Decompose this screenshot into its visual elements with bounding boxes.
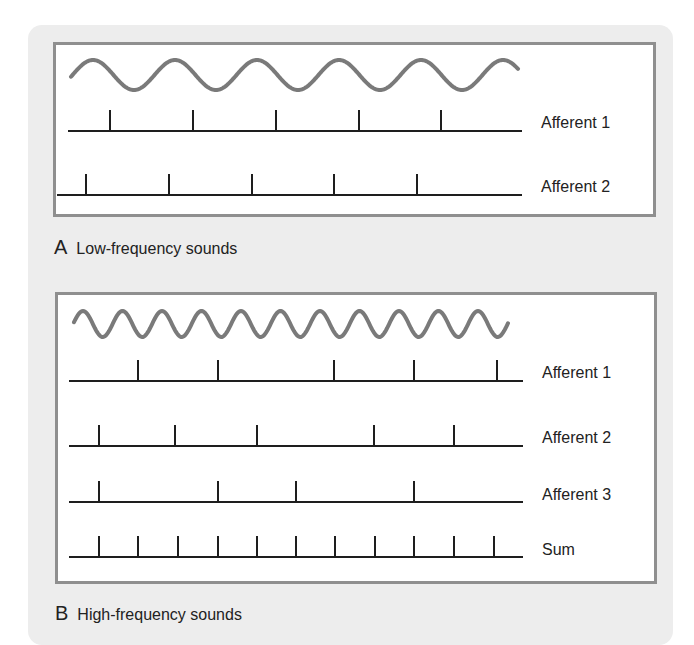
spike-train-afferent-1 [68, 110, 522, 131]
panel-b-afferent-2-label: Afferent 2 [542, 429, 611, 447]
panel-b-sound-wave [74, 311, 508, 337]
panel-b-afferent-3-label: Afferent 3 [542, 486, 611, 504]
panel-b-letter: B [55, 602, 68, 624]
spike-train-afferent-3 [69, 481, 523, 502]
panel-a-letter: A [54, 236, 67, 258]
spike-train-afferent-1 [69, 360, 523, 381]
spike-train-afferent-2 [69, 425, 523, 446]
spike-train-afferent-2 [57, 174, 522, 195]
panel-b-caption: BHigh-frequency sounds [55, 602, 242, 625]
panel-b-sum-label: Sum [542, 541, 575, 559]
panel-a-caption: ALow-frequency sounds [54, 236, 237, 259]
panel-a-afferent-2-label: Afferent 2 [541, 178, 610, 196]
sound-waves [71, 60, 518, 337]
spike-train-sum [69, 536, 523, 557]
panel-a-title: Low-frequency sounds [76, 240, 237, 257]
panel-a-afferent-1-label: Afferent 1 [541, 114, 610, 132]
panel-b-afferent-1-label: Afferent 1 [542, 364, 611, 382]
panel-b-title: High-frequency sounds [77, 606, 242, 623]
panel-a-sound-wave [71, 60, 518, 90]
